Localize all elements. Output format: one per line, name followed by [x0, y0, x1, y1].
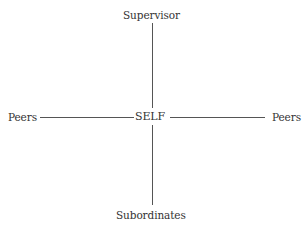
- connector-left: [40, 117, 134, 118]
- subordinates-label: Subordinates: [116, 209, 186, 221]
- connector-right: [170, 117, 265, 118]
- peers-right-label: Peers: [272, 111, 301, 123]
- connector-down: [152, 125, 153, 205]
- supervisor-label: Supervisor: [123, 9, 180, 21]
- connector-up: [152, 23, 153, 108]
- self-label: SELF: [135, 110, 165, 123]
- peers-left-label: Peers: [8, 111, 37, 123]
